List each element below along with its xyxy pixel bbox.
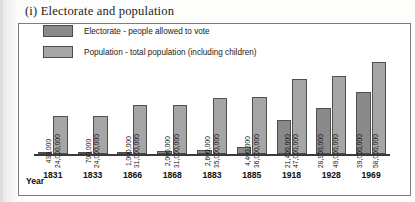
year-label: 1831 <box>38 170 68 180</box>
bar-group: 28,900,00049,000,000 <box>316 62 346 154</box>
bar-population: 31,000,000 <box>173 105 188 154</box>
bar-population: 24,000,000 <box>53 116 68 154</box>
bar-group: 21,400,00047,000,000 <box>277 62 307 154</box>
bar-value-label: 58,000,000 <box>372 134 379 168</box>
bar-group: 700,00024,000,000 <box>78 62 108 154</box>
x-axis-year-labels: 183118331866186818831885191819281969 <box>18 170 411 188</box>
bar-value-label: 31,000,000 <box>133 134 140 168</box>
year-label: 1833 <box>78 170 108 180</box>
year-label: 1866 <box>117 170 147 180</box>
bar-value-label: 2,600,000 <box>204 136 211 166</box>
bar-group: 2,600,00035,000,000 <box>197 62 227 154</box>
chart-plot-area: 435,00024,000,000700,00024,000,0001,000,… <box>34 62 392 154</box>
bar-value-label: 24,000,000 <box>54 134 61 168</box>
bar-value-label: 28,900,000 <box>317 134 324 168</box>
year-label: 1918 <box>277 170 307 180</box>
legend-label-population: Population - total population (including… <box>84 48 257 57</box>
bar-population: 31,000,000 <box>133 105 148 154</box>
year-label: 1885 <box>237 170 267 180</box>
bar-population: 47,000,000 <box>292 79 307 154</box>
bar-population: 49,000,000 <box>332 76 347 154</box>
year-label: 1883 <box>197 170 227 180</box>
bar-value-label: 35,000,000 <box>213 134 220 168</box>
bar-group: 1,000,00031,000,000 <box>117 62 147 154</box>
bar-value-label: 49,000,000 <box>332 134 339 168</box>
scan-page-edge-dark <box>0 0 3 202</box>
bar-electorate: 21,400,000 <box>277 120 292 154</box>
bar-population: 24,000,000 <box>93 116 108 154</box>
page-background: (i) Electorate and population Electorate… <box>0 0 415 202</box>
bar-value-label: 21,400,000 <box>284 134 291 168</box>
bar-population: 58,000,000 <box>372 62 387 154</box>
chart-legend: Electorate - people allowed to vote Popu… <box>43 24 257 66</box>
bar-value-label: 1,000,000 <box>125 136 132 166</box>
bar-value-label: 700,000 <box>85 139 92 164</box>
bar-population: 36,000,000 <box>252 97 267 154</box>
bar-value-label: 31,000,000 <box>173 134 180 168</box>
bar-value-label: 36,000,000 <box>253 134 260 168</box>
legend-item-population: Population - total population (including… <box>43 45 257 59</box>
legend-item-electorate: Electorate - people allowed to vote <box>43 24 257 38</box>
legend-label-electorate: Electorate - people allowed to vote <box>84 27 210 36</box>
bar-value-label: 2,000,000 <box>164 136 171 166</box>
page-title: (i) Electorate and population <box>25 4 174 19</box>
bar-value-label: 39,000,000 <box>356 134 363 168</box>
bar-value-label: 24,000,000 <box>93 134 100 168</box>
bar-value-label: 47,000,000 <box>292 134 299 168</box>
bar-group: 39,000,00058,000,000 <box>356 62 386 154</box>
chart-baseline-axis <box>34 154 390 156</box>
bar-population: 35,000,000 <box>213 98 228 154</box>
bar-group: 4,400,00036,000,000 <box>237 62 267 154</box>
bar-value-label: 435,000 <box>45 139 52 164</box>
bar-electorate: 28,900,000 <box>316 108 331 154</box>
legend-swatch-electorate <box>43 25 73 37</box>
bar-value-label: 4,400,000 <box>244 136 251 166</box>
year-label: 1969 <box>356 170 386 180</box>
bar-group: 2,000,00031,000,000 <box>157 62 187 154</box>
bar-group: 435,00024,000,000 <box>38 62 68 154</box>
bar-electorate: 39,000,000 <box>356 92 371 154</box>
legend-swatch-population <box>43 46 73 58</box>
year-label: 1928 <box>316 170 346 180</box>
bar-electorate: 4,400,000 <box>237 147 252 154</box>
year-label: 1868 <box>157 170 187 180</box>
